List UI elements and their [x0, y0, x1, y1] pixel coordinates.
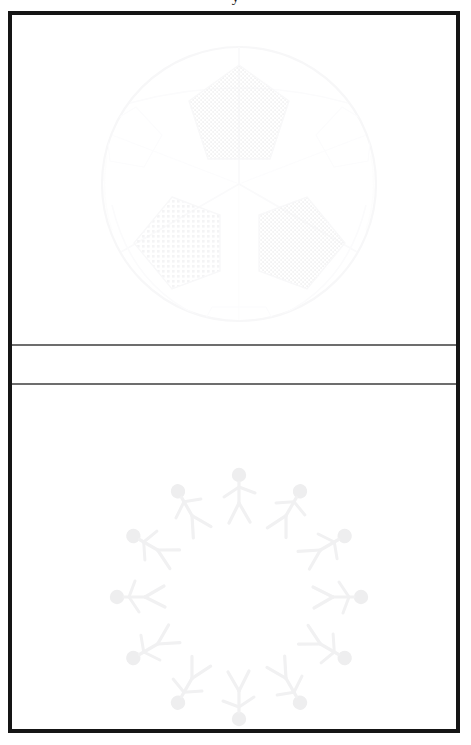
- ring-figure: [161, 653, 215, 716]
- stick-figure-ring-panel: [12, 385, 456, 729]
- blank-band: [12, 346, 456, 383]
- ring-figure: [120, 519, 183, 573]
- stick-figure-ring-svg: [12, 385, 456, 729]
- ring-figure: [263, 478, 317, 541]
- ring-figure: [313, 582, 368, 613]
- ring-figure: [262, 654, 316, 717]
- soccer-ball-figure: [12, 15, 456, 344]
- cropped-caption-text: y: [0, 0, 471, 5]
- soccer-ball-svg: [12, 15, 456, 344]
- soccer-ball-panel: [12, 15, 456, 344]
- ring-figure: [296, 519, 359, 573]
- figure-ring-group: [110, 468, 368, 726]
- ring-figure: [223, 671, 254, 726]
- ring-figure: [161, 477, 215, 540]
- ring-figure: [119, 620, 182, 674]
- ring-figure: [295, 621, 358, 675]
- page-frame: [8, 11, 460, 733]
- ring-figure: [110, 581, 165, 612]
- stick-figure-ring-figure: [12, 385, 456, 729]
- ring-figure: [224, 468, 255, 523]
